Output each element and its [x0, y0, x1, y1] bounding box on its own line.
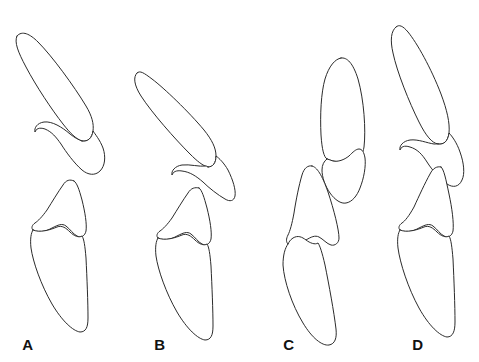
panel-label-d: D — [412, 336, 423, 353]
panel-label-b: B — [154, 336, 165, 353]
figure-root: A B C D — [0, 0, 479, 362]
panel-label-a: A — [22, 336, 33, 353]
panel-label-c: C — [283, 336, 294, 353]
figure-canvas: A B C D — [0, 0, 479, 362]
